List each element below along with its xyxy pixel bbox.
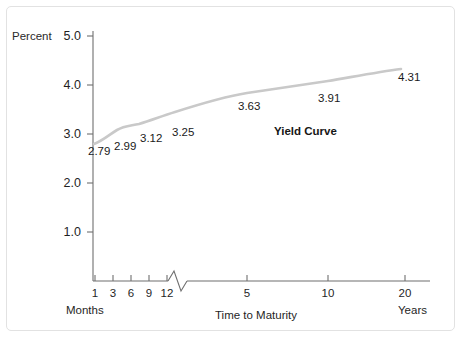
- x-tick-label-20yr: 20: [394, 288, 416, 300]
- x-axis-years-label: Years: [398, 305, 427, 317]
- x-tick-label-12: 12: [156, 288, 178, 300]
- data-label-10yr: 3.91: [318, 93, 340, 105]
- y-tick-label-3: 3.0: [45, 128, 81, 141]
- data-label-3mo: 2.99: [114, 141, 136, 153]
- data-label-6mo: 3.12: [140, 133, 162, 145]
- x-tick-label-10yr: 10: [317, 288, 339, 300]
- y-tick-label-4: 4.0: [45, 79, 81, 92]
- x-axis-months-label: Months: [66, 305, 104, 317]
- y-tick-label-5: 5.0: [45, 30, 81, 43]
- data-label-1mo: 2.79: [88, 146, 110, 158]
- data-label-20yr: 4.31: [398, 72, 420, 84]
- x-tick-label-5yr: 5: [236, 288, 258, 300]
- data-label-5yr: 3.63: [238, 101, 260, 113]
- y-tick-label-2: 2.0: [45, 177, 81, 190]
- series-label-yield-curve: Yield Curve: [274, 126, 337, 138]
- y-tick-label-1: 1.0: [45, 226, 81, 239]
- x-axis-title: Time to Maturity: [215, 310, 297, 322]
- chart-figure: Percent 5.0 4.0 3.0 2.0 1.0 1 3 6 9 12 5…: [0, 0, 463, 339]
- data-label-12mo: 3.25: [172, 127, 194, 139]
